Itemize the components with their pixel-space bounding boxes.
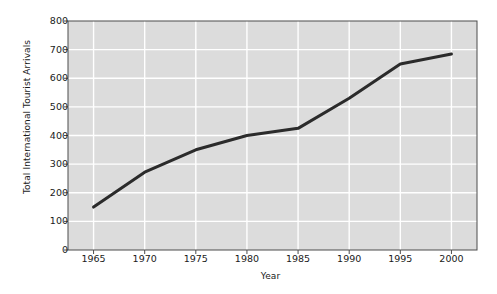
x-tick-label: 1990 [329, 254, 369, 264]
y-tick-label: 800 [34, 16, 68, 26]
x-axis-title: Year [78, 271, 463, 281]
line-chart-plot [0, 0, 497, 294]
x-tick-label: 1980 [227, 254, 267, 264]
x-tick-label: 1995 [380, 254, 420, 264]
y-tick-label: 0 [34, 245, 68, 255]
y-axis-title: Total International Tourist Arrivals [22, 2, 32, 232]
y-tick-label: 400 [34, 131, 68, 141]
x-tick-label: 1970 [125, 254, 165, 264]
y-tick-label: 700 [34, 45, 68, 55]
x-tick-label: 1975 [176, 254, 216, 264]
y-tick-label: 200 [34, 188, 68, 198]
x-tick-label: 2000 [431, 254, 471, 264]
chart-figure: 0100200300400500600700800 Total Internat… [0, 0, 497, 294]
x-tick-label: 1965 [74, 254, 114, 264]
y-tick-label: 600 [34, 73, 68, 83]
y-axis-tick-labels: 0100200300400500600700800 [34, 0, 68, 294]
y-tick-label: 300 [34, 159, 68, 169]
y-tick-label: 100 [34, 216, 68, 226]
x-tick-label: 1985 [278, 254, 318, 264]
y-tick-label: 500 [34, 102, 68, 112]
